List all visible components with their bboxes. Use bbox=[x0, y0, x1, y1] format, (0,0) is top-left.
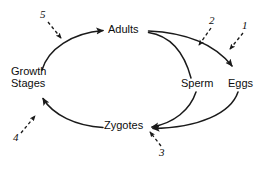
node-label-zygotes: Zygotes bbox=[104, 120, 143, 132]
node-label-growth-stages-line2: Stages bbox=[11, 78, 46, 90]
callout-number-2: 2 bbox=[209, 15, 215, 26]
edge-growth-stages-to-adults bbox=[42, 31, 103, 71]
callout-number-1: 1 bbox=[242, 20, 248, 31]
callout-leader-4 bbox=[21, 116, 35, 133]
callout-number-4: 4 bbox=[13, 132, 19, 143]
callout-leader-2 bbox=[199, 28, 211, 45]
edge-adults-to-sperm bbox=[149, 33, 192, 79]
callout-leader-5 bbox=[48, 22, 61, 38]
node-label-growth-stages-line1: Growth bbox=[11, 66, 46, 78]
edge-zygotes-to-growth-stages bbox=[43, 99, 103, 128]
node-label-eggs: Eggs bbox=[228, 78, 253, 90]
node-label-sperm: Sperm bbox=[181, 78, 213, 90]
callout-number-3: 3 bbox=[159, 147, 165, 158]
callout-leader-3 bbox=[150, 132, 161, 146]
edge-sperm-to-zygotes bbox=[152, 92, 196, 127]
node-label-adults: Adults bbox=[108, 24, 139, 36]
callout-leader-1 bbox=[230, 33, 243, 49]
node-label-growth-stages: Growth Stages bbox=[11, 66, 46, 89]
life-cycle-diagram: Adults Growth Stages Sperm Eggs Zygotes … bbox=[0, 0, 266, 169]
callout-number-5: 5 bbox=[40, 9, 46, 20]
